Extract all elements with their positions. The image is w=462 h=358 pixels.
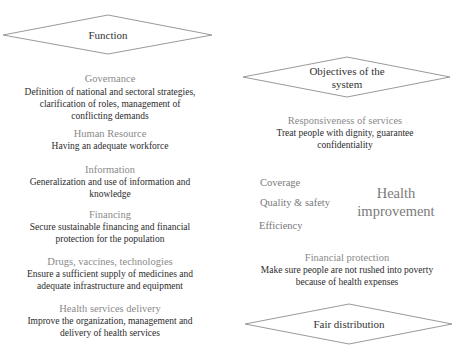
item-title: Governance (85, 73, 136, 85)
item-title: Human Resource (74, 128, 147, 140)
item-line: Ensure a sufficient supply of medicines … (27, 268, 193, 280)
item-title: Drugs, vaccines, technologies (47, 256, 172, 268)
item-line: Improve the organization, management and (27, 315, 192, 327)
objectives-label-line1: Objectives of the (309, 65, 384, 77)
item-line: Definition of national and sectoral stra… (25, 86, 196, 98)
item-line: clarification of roles, management of (40, 98, 181, 110)
intermediate-coverage: Coverage (260, 177, 300, 189)
function-label: Function (88, 29, 127, 41)
objectives-diamond (243, 57, 450, 97)
intermediate-quality-safety: Quality & safety (260, 197, 330, 209)
item-line: confidentiality (317, 139, 372, 151)
item-title: Financing (89, 209, 131, 221)
item-title: Financial protection (305, 252, 389, 264)
item-title: Health services delivery (59, 303, 160, 315)
item-line: Make sure people are not rushed into pov… (261, 264, 433, 276)
item-title: Information (85, 164, 135, 176)
health-improvement-line2: improvement (357, 202, 434, 220)
item-line: Treat people with dignity, guarantee (276, 127, 413, 139)
item-line: knowledge (89, 188, 131, 200)
item-line: delivery of health services (60, 327, 160, 339)
item-line: adequate infrastructure and equipment (37, 280, 183, 292)
fair-distribution-label: Fair distribution (313, 318, 384, 330)
item-line: conflicting demands (71, 110, 148, 122)
item-line: Generalization and use of information an… (30, 176, 191, 188)
intermediate-efficiency: Efficiency (259, 220, 303, 232)
health-improvement-line1: Health (377, 184, 416, 202)
item-line: Having an adequate workforce (52, 140, 169, 152)
objectives-label-line2: system (332, 78, 363, 90)
item-title: Responsiveness of services (288, 115, 402, 127)
item-line: protection for the population (56, 233, 165, 245)
item-line: because of health expenses (296, 276, 399, 288)
item-line: Secure sustainable financing and financi… (30, 221, 190, 233)
